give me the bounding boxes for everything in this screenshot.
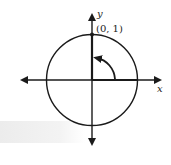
rotation-arrow xyxy=(97,58,115,79)
x-axis-label: x xyxy=(157,83,163,94)
point-label: (0, 1) xyxy=(96,23,123,34)
unit-circle-diagram: y x (0, 1) xyxy=(0,0,171,165)
y-axis-label: y xyxy=(96,8,103,19)
point-0-1 xyxy=(90,33,94,37)
